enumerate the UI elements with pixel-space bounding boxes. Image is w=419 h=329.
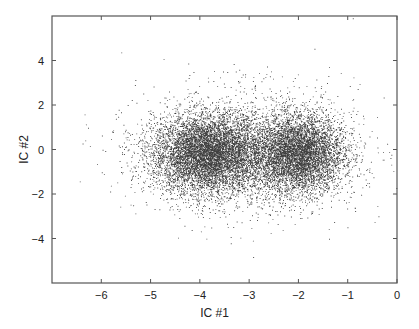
x-tick-label: −1 bbox=[341, 289, 354, 301]
x-axis-label: IC #1 bbox=[200, 306, 229, 320]
y-tick-label: 2 bbox=[38, 99, 44, 111]
y-tick-label: 4 bbox=[38, 55, 44, 67]
y-axis-label: IC #2 bbox=[17, 135, 31, 164]
x-tick-label: −5 bbox=[144, 289, 157, 301]
scatter-chart: −6−5−4−3−2−10 −4−2024 IC #1 IC #2 bbox=[0, 0, 419, 329]
y-tick-label: 0 bbox=[38, 144, 44, 156]
y-tick-label: −4 bbox=[31, 233, 44, 245]
y-tick-labels: −4−2024 bbox=[31, 55, 44, 245]
x-tick-label: −6 bbox=[95, 289, 108, 301]
x-tick-label: 0 bbox=[394, 289, 400, 301]
x-tick-label: −2 bbox=[292, 289, 305, 301]
x-tick-labels: −6−5−4−3−2−10 bbox=[95, 289, 400, 301]
data-points bbox=[80, 18, 398, 258]
y-tick-label: −2 bbox=[31, 188, 44, 200]
x-tick-label: −4 bbox=[194, 289, 207, 301]
scatter-points bbox=[80, 18, 398, 258]
x-tick-label: −3 bbox=[243, 289, 256, 301]
